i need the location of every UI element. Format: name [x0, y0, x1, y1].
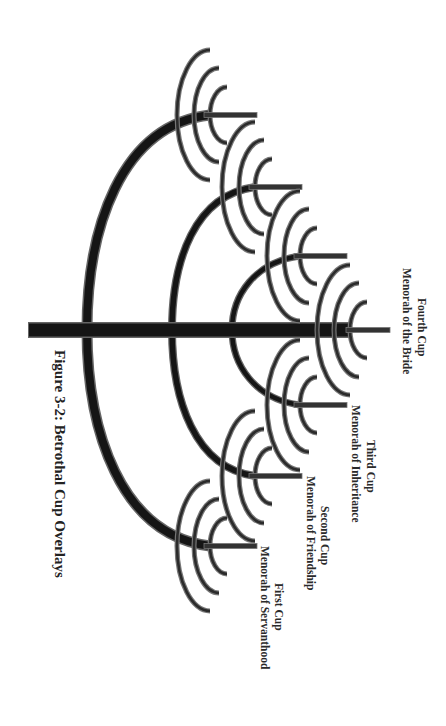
second-cup-title: Second Cup: [319, 506, 331, 565]
figure-caption: Figure 3-2: Betrothal Cup Overlays: [52, 350, 67, 578]
fourth-cup-subtitle: Menorah of the Bride: [401, 268, 413, 374]
menorah-m5: [267, 191, 347, 321]
menorah-m3: [267, 340, 347, 470]
third-cup-title: Third Cup: [365, 440, 377, 493]
second-cup-subtitle: Menorah of Friendship: [305, 476, 317, 590]
first-cup-subtitle: Menorah of Servanthood: [259, 546, 271, 669]
third-cup-subtitle: Menorah of Inheritance: [350, 405, 362, 523]
menorah-m6: [222, 122, 302, 252]
central-axis: [28, 322, 352, 338]
first-cup-title: First Cup: [273, 583, 285, 631]
fourth-cup-title: Fourth Cup: [416, 298, 428, 356]
